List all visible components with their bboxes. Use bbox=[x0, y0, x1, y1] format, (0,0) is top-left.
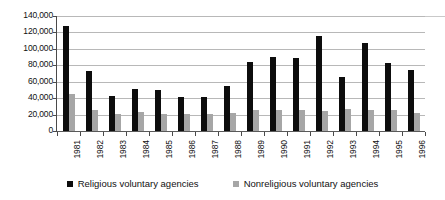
legend-label: Nonreligious voluntary agencies bbox=[244, 179, 379, 189]
x-tick-label-1986: 1986 bbox=[188, 140, 197, 159]
bar-nonreligious bbox=[414, 113, 420, 131]
bar-group bbox=[339, 16, 351, 131]
x-tick-mark bbox=[402, 132, 403, 136]
x-tick-mark bbox=[103, 132, 104, 136]
bar-group bbox=[408, 16, 420, 131]
bar-nonreligious bbox=[368, 110, 374, 131]
bar-nonreligious bbox=[184, 114, 190, 131]
x-tick-mark bbox=[379, 132, 380, 136]
bar-group bbox=[86, 16, 98, 131]
bar-nonreligious bbox=[391, 110, 397, 131]
bar-group bbox=[109, 16, 121, 131]
x-tick-label-1991: 1991 bbox=[303, 140, 312, 159]
bar-group bbox=[178, 16, 190, 131]
x-tick-label-1981: 1981 bbox=[73, 140, 82, 159]
x-tick-mark bbox=[241, 132, 242, 136]
x-tick-mark bbox=[425, 132, 426, 136]
x-tick-mark bbox=[218, 132, 219, 136]
bar-group bbox=[385, 16, 397, 131]
bar-nonreligious bbox=[322, 111, 328, 131]
y-tick-label: 120,000 bbox=[5, 27, 53, 36]
bar-chart-figure: 020,00040,00060,00080,000100,000120,0001… bbox=[0, 0, 445, 200]
bar-group bbox=[155, 16, 167, 131]
x-tick-label-1989: 1989 bbox=[257, 140, 266, 159]
x-tick-label-1983: 1983 bbox=[119, 140, 128, 159]
bar-group bbox=[201, 16, 213, 131]
y-tick-label: 100,000 bbox=[5, 44, 53, 53]
gray-square-icon bbox=[233, 181, 239, 187]
black-square-icon bbox=[67, 181, 73, 187]
x-tick-label-1985: 1985 bbox=[165, 140, 174, 159]
y-axis: 020,00040,00060,00080,000100,000120,0001… bbox=[0, 0, 53, 200]
x-tick-mark bbox=[333, 132, 334, 136]
x-tick-label-1996: 1996 bbox=[418, 140, 427, 159]
x-tick-label-1990: 1990 bbox=[280, 140, 289, 159]
chart-legend: Religious voluntary agenciesNonreligious… bbox=[0, 176, 445, 192]
x-tick-mark bbox=[287, 132, 288, 136]
bar-group bbox=[224, 16, 236, 131]
x-tick-label-1988: 1988 bbox=[234, 140, 243, 159]
plot-area bbox=[57, 16, 425, 131]
bar-nonreligious bbox=[345, 109, 351, 131]
bar-group bbox=[63, 16, 75, 131]
x-tick-label-1995: 1995 bbox=[395, 140, 404, 159]
x-tick-mark bbox=[80, 132, 81, 136]
bar-group bbox=[293, 16, 305, 131]
bar-nonreligious bbox=[253, 110, 259, 131]
bar-nonreligious bbox=[161, 114, 167, 131]
y-tick-label: 80,000 bbox=[5, 60, 53, 69]
legend-entry-religious: Religious voluntary agencies bbox=[67, 179, 199, 189]
y-tick-label: 20,000 bbox=[5, 110, 53, 119]
top-gridline-extension bbox=[425, 16, 445, 17]
x-tick-label-1984: 1984 bbox=[142, 140, 151, 159]
x-tick-mark bbox=[149, 132, 150, 136]
x-tick-mark bbox=[310, 132, 311, 136]
y-tick-label: 40,000 bbox=[5, 93, 53, 102]
bar-nonreligious bbox=[69, 94, 75, 131]
y-tick-label: 0 bbox=[5, 126, 53, 135]
bar-nonreligious bbox=[276, 110, 282, 131]
bar-group bbox=[362, 16, 374, 131]
x-tick-label-1992: 1992 bbox=[326, 140, 335, 159]
y-tick-label: 60,000 bbox=[5, 77, 53, 86]
x-tick-mark bbox=[356, 132, 357, 136]
x-tick-label-1987: 1987 bbox=[211, 140, 220, 159]
x-tick-mark bbox=[57, 132, 58, 136]
legend-label: Religious voluntary agencies bbox=[78, 179, 199, 189]
y-tick-label: 140,000 bbox=[5, 11, 53, 20]
x-tick-label-1994: 1994 bbox=[372, 140, 381, 159]
bar-nonreligious bbox=[207, 114, 213, 131]
x-tick-mark bbox=[195, 132, 196, 136]
bar-group bbox=[270, 16, 282, 131]
bar-group bbox=[316, 16, 328, 131]
x-tick-label-1982: 1982 bbox=[96, 140, 105, 159]
legend-entry-nonreligious: Nonreligious voluntary agencies bbox=[233, 179, 379, 189]
bar-nonreligious bbox=[138, 112, 144, 131]
x-tick-mark bbox=[172, 132, 173, 136]
x-tick-mark bbox=[264, 132, 265, 136]
bar-group bbox=[132, 16, 144, 131]
bar-nonreligious bbox=[230, 113, 236, 131]
bar-nonreligious bbox=[299, 110, 305, 131]
bar-nonreligious bbox=[115, 114, 121, 131]
bar-group bbox=[247, 16, 259, 131]
x-tick-label-1993: 1993 bbox=[349, 140, 358, 159]
bar-nonreligious bbox=[92, 110, 98, 131]
x-tick-mark bbox=[126, 132, 127, 136]
